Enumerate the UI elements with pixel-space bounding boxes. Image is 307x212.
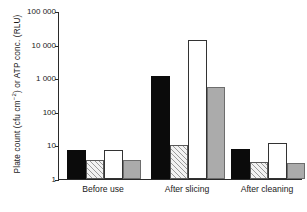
x-axis-category-label: After cleaning: [216, 184, 307, 194]
y-axis-tick-mark: [55, 46, 59, 47]
y-axis-tick-label: 100 000: [27, 8, 56, 16]
y-axis-tick-label: 1 000: [36, 75, 56, 83]
bar: [268, 143, 287, 179]
y-axis-tick-mark: [55, 180, 59, 181]
y-axis-tick-mark: [55, 12, 59, 13]
y-axis-tick-label: 10 000: [32, 42, 56, 50]
bar-group: [67, 12, 141, 179]
bar: [207, 87, 226, 179]
bar: [123, 160, 142, 179]
y-axis-tick-labels: 100 00010 0001 000100101: [16, 0, 56, 190]
bar: [231, 149, 250, 179]
bar-chart-figure: Plate count (cfu cm−2) or ATP conc. (RLU…: [0, 0, 307, 212]
y-axis-tick-mark: [55, 146, 59, 147]
bar-group-bars: [151, 12, 225, 179]
plot-area: [58, 12, 302, 180]
bar: [250, 162, 269, 179]
bar-group-bars: [231, 12, 305, 179]
bar: [188, 40, 207, 179]
bar-group-bars: [67, 12, 141, 179]
bar: [287, 163, 306, 179]
bar: [151, 76, 170, 179]
bar: [104, 150, 123, 179]
y-axis-label-wrap: Plate count (cfu cm−2) or ATP conc. (RLU…: [0, 0, 16, 190]
y-axis-tick-label: 100: [43, 109, 56, 117]
bar-group: [231, 12, 305, 179]
y-axis-tick-mark: [55, 79, 59, 80]
bar: [67, 150, 86, 179]
bar-group: [151, 12, 225, 179]
y-axis-tick-mark: [55, 113, 59, 114]
bar: [170, 145, 189, 179]
bar: [86, 160, 105, 179]
